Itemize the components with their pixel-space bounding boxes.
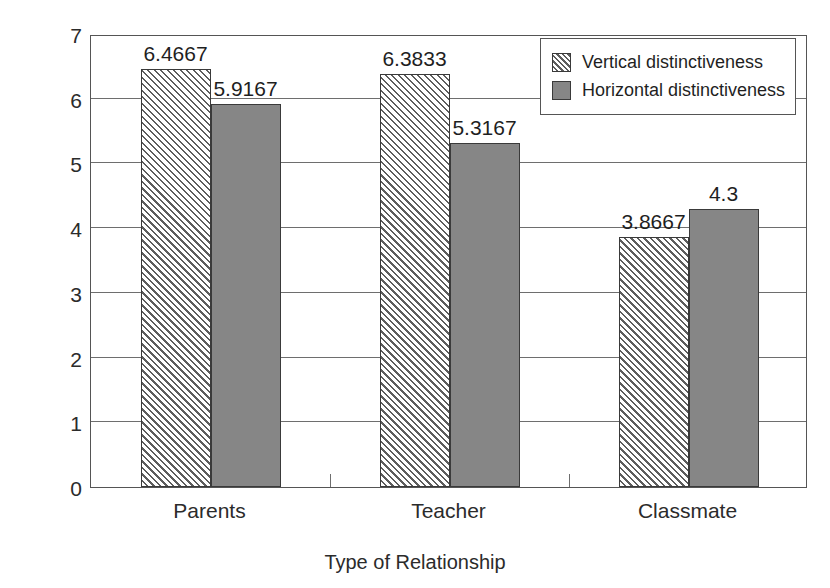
bar (380, 74, 450, 487)
x-axis-category-label: Teacher (411, 500, 486, 521)
bar-value-label: 4.3 (709, 183, 738, 204)
x-axis-title: Type of Relationship (0, 551, 830, 574)
bar-chart-figure: Feelings of having face 01234567 6.46675… (0, 0, 830, 588)
legend-item: Vertical distinctiveness (552, 48, 784, 76)
solid-gray-swatch-icon (552, 81, 571, 100)
y-axis-tick-labels: 01234567 (48, 35, 82, 488)
bar (619, 237, 689, 487)
bar-value-label: 3.8667 (621, 211, 685, 232)
y-axis-tick-label: 4 (70, 219, 82, 240)
y-axis-tick-label: 1 (70, 413, 82, 434)
hatched-swatch-icon (552, 53, 571, 72)
bar (211, 104, 281, 487)
legend-item: Horizontal distinctiveness (552, 76, 784, 104)
bar (689, 209, 759, 487)
bar-value-label: 5.9167 (213, 78, 277, 99)
bar (141, 69, 211, 487)
y-axis-tick-label: 0 (70, 478, 82, 499)
x-axis-tick-mark (330, 474, 331, 487)
x-axis-category-label: Parents (173, 500, 245, 521)
bar-value-label: 6.3833 (382, 48, 446, 69)
y-axis-tick-label: 6 (70, 89, 82, 110)
chart-legend: Vertical distinctivenessHorizontal disti… (540, 38, 796, 115)
y-axis-tick-label: 3 (70, 283, 82, 304)
bar-value-label: 5.3167 (452, 117, 516, 138)
y-axis-tick-label: 7 (70, 25, 82, 46)
y-axis-tick-label: 5 (70, 154, 82, 175)
bar-value-label: 6.4667 (143, 43, 207, 64)
x-axis-category-label: Classmate (638, 500, 737, 521)
y-axis-tick-label: 2 (70, 348, 82, 369)
legend-item-label: Horizontal distinctiveness (582, 81, 785, 99)
x-axis-tick-mark (569, 474, 570, 487)
bar (450, 143, 520, 487)
legend-item-label: Vertical distinctiveness (582, 53, 763, 71)
